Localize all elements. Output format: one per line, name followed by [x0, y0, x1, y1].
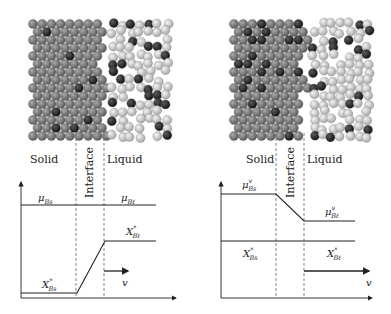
x-liquid-label: X*Bℓ: [326, 246, 341, 262]
atomic-structure-left: [28, 19, 173, 143]
mu-solid-label: μBs: [38, 192, 53, 206]
label-interface: Interface: [284, 147, 297, 198]
atomic-structure-right: [229, 18, 374, 143]
label-interface: Interface: [83, 147, 96, 198]
mu-liquid-label: μBℓ: [121, 192, 135, 206]
x-solid-label: X*Bs: [41, 277, 57, 293]
x-solid-label: X*Bs: [242, 246, 258, 262]
solidification-diagram: Solid Liquid Interface v μBs μBℓ X*Bℓ X*…: [0, 0, 391, 314]
label-solid: Solid: [30, 153, 58, 166]
velocity-label: v: [122, 277, 128, 288]
plot-right: Solid Liquid Interface v μvBs μvBℓ X*Bs …: [221, 133, 372, 298]
plot-left: Solid Liquid Interface v μBs μBℓ X*Bℓ X*…: [21, 133, 176, 298]
mu-liquid-label: μvBℓ: [325, 204, 339, 220]
velocity-label: v: [366, 277, 372, 288]
x-liquid-label: X*Bℓ: [125, 224, 140, 240]
label-liquid: Liquid: [107, 153, 143, 166]
mu-solid-label: μvBs: [242, 177, 257, 193]
label-liquid: Liquid: [307, 153, 343, 166]
label-solid: Solid: [246, 153, 274, 166]
